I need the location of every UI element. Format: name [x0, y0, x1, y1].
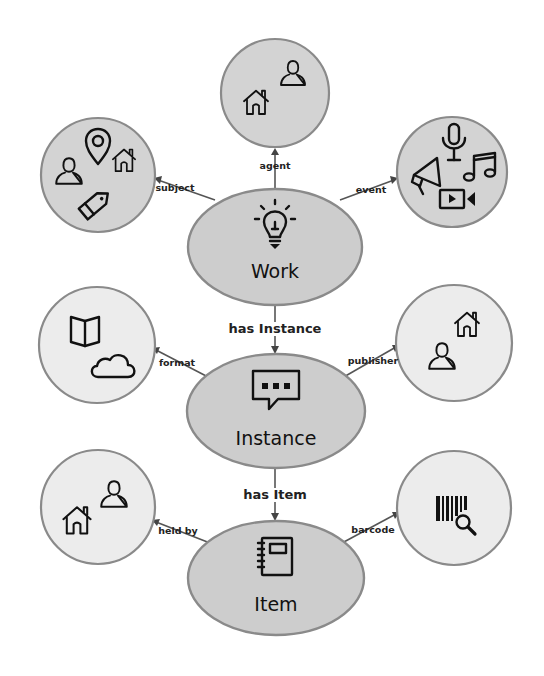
satellite-held-by[interactable]	[41, 450, 155, 564]
edge-label-has-item: has Item	[243, 487, 307, 502]
node-work[interactable]: Work	[188, 189, 362, 305]
satellite-event[interactable]	[397, 117, 507, 227]
edge-label-subject: subject	[155, 182, 195, 193]
node-item[interactable]: Item	[188, 521, 364, 635]
edge-label-agent: agent	[260, 160, 291, 171]
satellite-format[interactable]	[39, 287, 155, 403]
edge-label-held-by: held by	[158, 525, 198, 536]
edge-label-barcode: barcode	[351, 524, 394, 535]
satellite-barcode[interactable]	[397, 451, 511, 565]
satellite-subject[interactable]	[41, 118, 155, 232]
node-instance[interactable]: Instance	[187, 354, 365, 468]
node-title-instance: Instance	[236, 427, 317, 449]
node-title-item: Item	[254, 593, 297, 615]
node-title-work: Work	[251, 260, 299, 282]
bibframe-diagram: agent subject	[0, 0, 544, 676]
edge-label-event: event	[356, 184, 387, 195]
edge-label-has-instance: has Instance	[229, 321, 322, 336]
satellite-publisher[interactable]	[396, 285, 512, 401]
edge-label-format: format	[159, 357, 196, 368]
edge-label-publisher: publisher	[348, 355, 399, 366]
satellite-agent[interactable]	[221, 39, 329, 147]
